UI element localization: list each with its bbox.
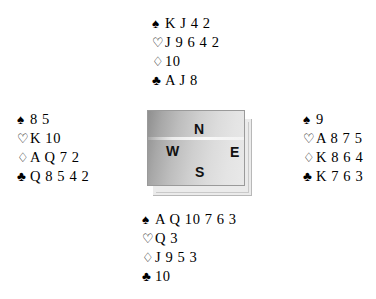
compass-label-east: E [230,145,239,159]
hand-east-diamonds: K 8 6 4 [316,148,363,167]
hand-north-diamonds-line: ♢ 10 [152,52,220,71]
heart-icon: ♡ [142,229,155,248]
hand-south-hearts: Q 3 [155,229,178,248]
spade-icon: ♠ [152,14,165,33]
hand-south-hearts-line: ♡ Q 3 [142,229,237,248]
bridge-deal-diagram: ♠ K J 4 2 ♡ J 9 6 4 2 ♢ 10 ♣ A J 8 ♠ 8 5… [0,0,376,299]
hand-east-spades: 9 [316,110,324,129]
spade-icon: ♠ [303,110,316,129]
hand-east-diamonds-line: ♢ K 8 6 4 [303,148,363,167]
club-icon: ♣ [303,167,316,186]
hand-east: ♠ 9 ♡ A 8 7 5 ♢ K 8 6 4 ♣ K 7 6 3 [303,110,363,186]
hand-north-hearts: J 9 6 4 2 [165,33,220,52]
hand-west-clubs: Q 8 5 4 2 [30,167,89,186]
hand-south-diamonds: J 9 5 3 [155,248,197,267]
hand-east-spades-line: ♠ 9 [303,110,363,129]
hand-south-spades-line: ♠ A Q 10 7 6 3 [142,210,237,229]
hand-north-spades: K J 4 2 [165,14,211,33]
diamond-icon: ♢ [303,148,316,167]
club-icon: ♣ [17,167,30,186]
hand-west-clubs-line: ♣ Q 8 5 4 2 [17,167,89,186]
hand-south-clubs-line: ♣ 10 [142,267,237,286]
hand-north: ♠ K J 4 2 ♡ J 9 6 4 2 ♢ 10 ♣ A J 8 [152,14,220,90]
hand-west-spades-line: ♠ 8 5 [17,110,89,129]
club-icon: ♣ [142,267,155,286]
hand-west-spades: 8 5 [30,110,50,129]
hand-north-clubs-line: ♣ A J 8 [152,71,220,90]
club-icon: ♣ [152,71,165,90]
hand-east-clubs-line: ♣ K 7 6 3 [303,167,363,186]
compass-label-north: N [194,122,204,136]
spade-icon: ♠ [142,210,155,229]
diamond-icon: ♢ [152,52,165,71]
heart-icon: ♡ [17,129,30,148]
heart-icon: ♡ [152,33,165,52]
compass-label-south: S [195,165,204,179]
hand-south-diamonds-line: ♢ J 9 5 3 [142,248,237,267]
compass-highlight-band [148,137,244,140]
hand-west-hearts: K 10 [30,129,61,148]
hand-north-hearts-line: ♡ J 9 6 4 2 [152,33,220,52]
hand-north-spades-line: ♠ K J 4 2 [152,14,220,33]
hand-west-diamonds-line: ♢ A Q 7 2 [17,148,89,167]
diamond-icon: ♢ [142,248,155,267]
heart-icon: ♡ [303,129,316,148]
spade-icon: ♠ [17,110,30,129]
hand-west: ♠ 8 5 ♡ K 10 ♢ A Q 7 2 ♣ Q 8 5 4 2 [17,110,89,186]
hand-east-clubs: K 7 6 3 [316,167,363,186]
compass-rose: N W E S [145,108,255,200]
compass-box: N W E S [147,110,245,186]
diamond-icon: ♢ [17,148,30,167]
hand-west-hearts-line: ♡ K 10 [17,129,89,148]
hand-south: ♠ A Q 10 7 6 3 ♡ Q 3 ♢ J 9 5 3 ♣ 10 [142,210,237,286]
hand-east-hearts-line: ♡ A 8 7 5 [303,129,363,148]
hand-west-diamonds: A Q 7 2 [30,148,80,167]
hand-south-spades: A Q 10 7 6 3 [155,210,237,229]
compass-label-west: W [166,144,179,158]
hand-south-clubs: 10 [155,267,171,286]
hand-north-clubs: A J 8 [165,71,198,90]
hand-east-hearts: A 8 7 5 [316,129,363,148]
hand-north-diamonds: 10 [165,52,181,71]
